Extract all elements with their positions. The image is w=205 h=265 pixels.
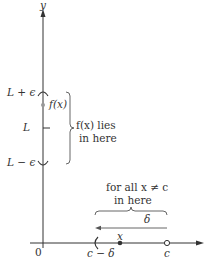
- origin-label: 0: [35, 247, 42, 258]
- lower-bound-label: L − ϵ: [7, 157, 35, 168]
- horizontal-brace: [95, 207, 167, 215]
- fx-point: [41, 103, 45, 107]
- c-minus-delta-label: c − δ: [87, 248, 115, 259]
- c-point-open: [164, 240, 169, 245]
- fx-point-label: f(x): [49, 99, 67, 110]
- x-brace-text-line2: in here: [114, 195, 152, 206]
- y-brace-text-line2: in here: [79, 133, 117, 144]
- delta-label: δ: [144, 214, 150, 225]
- x-brace-text-line1: for all x ≠ c: [106, 182, 168, 193]
- y-axis-label: y: [40, 0, 46, 11]
- vertical-brace: [66, 92, 74, 164]
- x-point-label: x: [117, 231, 123, 242]
- c-point-label: c: [164, 248, 170, 259]
- upper-bound-label: L + ϵ: [7, 87, 35, 98]
- delta-arrowhead-icon: [95, 226, 101, 230]
- L-label: L: [23, 122, 30, 133]
- x-axis-arrow-icon: [196, 241, 204, 246]
- y-brace-text-line1: f(x) lies: [76, 120, 116, 131]
